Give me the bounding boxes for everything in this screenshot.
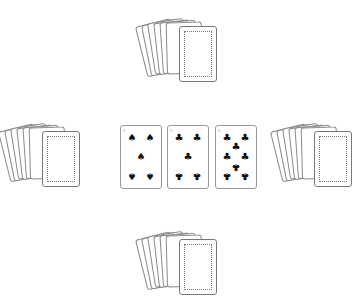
played-card-3[interactable]: ♣♣♣♣♣♣♣♣8	[215, 125, 257, 189]
clubs-pip-icon: ♣	[192, 171, 202, 181]
clubs-pip-icon: ♣	[183, 152, 193, 162]
spades-pip-icon: ♠	[145, 171, 155, 181]
clubs-pip-icon: ♣	[240, 152, 250, 162]
clubs-pip-icon: ♣	[174, 171, 184, 181]
rank-index: 8	[218, 128, 221, 133]
card-back-top	[179, 26, 217, 82]
card-back-pattern	[184, 244, 212, 290]
rank-index: 5	[170, 128, 173, 133]
card-back-top	[179, 239, 217, 295]
clubs-pip-icon: ♣	[222, 152, 232, 162]
hand-right[interactable]	[278, 115, 354, 189]
played-card-2[interactable]: ♣♣♣♣♣5	[167, 125, 209, 189]
spades-pip-icon: ♠	[127, 171, 137, 181]
card-back-pattern	[319, 136, 347, 182]
hand-left[interactable]	[6, 115, 82, 189]
card-back-pattern	[47, 136, 75, 182]
hand-bottom[interactable]	[143, 223, 219, 297]
card-back-top	[314, 131, 352, 187]
card-back-top	[42, 131, 80, 187]
card-back-pattern	[184, 31, 212, 77]
rank-index: 5	[123, 128, 126, 133]
clubs-pip-icon: ♣	[174, 133, 184, 143]
spades-pip-icon: ♠	[127, 133, 137, 143]
hand-top[interactable]	[143, 10, 219, 84]
clubs-pip-icon: ♣	[192, 133, 202, 143]
clubs-pip-icon: ♣	[222, 171, 232, 181]
clubs-pip-icon: ♣	[240, 171, 250, 181]
clubs-pip-icon: ♣	[231, 142, 241, 152]
spades-pip-icon: ♠	[136, 152, 146, 162]
spades-pip-icon: ♠	[145, 133, 155, 143]
clubs-pip-icon: ♣	[240, 133, 250, 143]
played-card-1[interactable]: ♠♠♠♠♠5	[120, 125, 162, 189]
